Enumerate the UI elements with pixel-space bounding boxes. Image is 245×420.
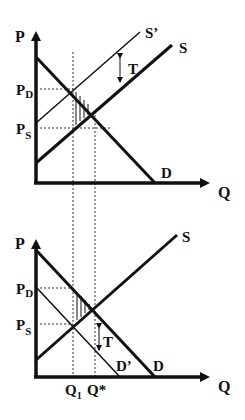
top-panel: P Q S’ S D T PD PS — [15, 25, 230, 201]
bottom-x-axis-label: Q — [218, 378, 230, 395]
bottom-tax-label: T — [103, 334, 113, 350]
bottom-y-axis-label: P — [15, 235, 25, 252]
bottom-q-star-label: Q* — [87, 382, 106, 398]
bottom-demand-label: D — [153, 358, 164, 374]
bottom-supply-label: S — [182, 229, 190, 245]
top-y-axis-label: P — [15, 28, 25, 45]
bottom-q1-label: Q1 — [65, 382, 82, 401]
top-x-axis-label: Q — [218, 184, 230, 201]
top-ps-label: PS — [16, 121, 31, 141]
bottom-demand-shifted-curve — [36, 287, 120, 377]
bottom-panel: P Q S D’ D T PD PS Q1 — [15, 229, 230, 401]
bottom-demand-shifted-label: D’ — [116, 358, 132, 374]
top-supply-shifted-label: S’ — [145, 25, 158, 41]
top-pd-label: PD — [16, 82, 33, 100]
top-demand-label: D — [161, 165, 172, 181]
bottom-pd-label: PD — [16, 281, 33, 299]
bottom-ps-label: PS — [16, 317, 31, 337]
top-supply-label: S — [179, 40, 187, 56]
tax-incidence-diagram: P Q S’ S D T PD PS — [0, 0, 245, 420]
top-tax-label: T — [128, 61, 138, 77]
